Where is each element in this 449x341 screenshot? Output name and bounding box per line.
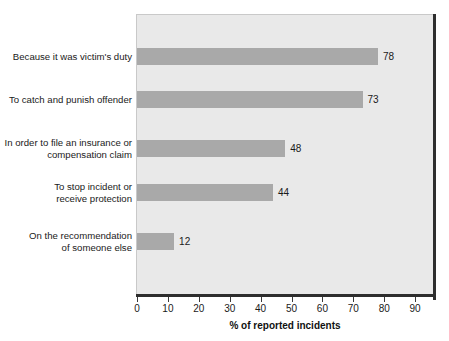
tick-label: 20 bbox=[187, 303, 211, 314]
tick-label: 90 bbox=[403, 303, 427, 314]
bar bbox=[137, 91, 363, 108]
category-label: To catch and punish offender bbox=[4, 94, 132, 106]
tick-mark bbox=[292, 297, 293, 302]
category-label: On the recommendation of someone else bbox=[4, 230, 132, 253]
bar bbox=[137, 48, 378, 65]
tick-label: 50 bbox=[280, 303, 304, 314]
tick-mark bbox=[137, 297, 138, 302]
bar-chart: 7873484412 Because it was victim's dutyT… bbox=[0, 0, 449, 341]
tick-mark bbox=[415, 297, 416, 302]
category-label: To stop incident or receive protection bbox=[4, 181, 132, 204]
tick-label: 40 bbox=[249, 303, 273, 314]
tick-label: 0 bbox=[125, 303, 149, 314]
bar-value-label: 12 bbox=[179, 233, 190, 250]
category-label: Because it was victim's duty bbox=[4, 51, 132, 63]
bar-value-label: 78 bbox=[383, 48, 394, 65]
x-axis-line bbox=[136, 294, 436, 297]
tick-mark bbox=[230, 297, 231, 302]
tick-mark bbox=[322, 297, 323, 302]
tick-mark bbox=[168, 297, 169, 302]
plot-border-right bbox=[433, 14, 436, 300]
tick-mark bbox=[353, 297, 354, 302]
bar-value-label: 73 bbox=[368, 91, 379, 108]
tick-label: 70 bbox=[341, 303, 365, 314]
category-label: In order to file an insurance or compens… bbox=[4, 137, 132, 160]
tick-label: 60 bbox=[310, 303, 334, 314]
tick-mark bbox=[199, 297, 200, 302]
tick-mark bbox=[384, 297, 385, 302]
tick-mark bbox=[261, 297, 262, 302]
bar bbox=[137, 233, 174, 250]
bar-value-label: 44 bbox=[278, 184, 289, 201]
bar bbox=[137, 140, 285, 157]
bar-value-label: 48 bbox=[290, 140, 301, 157]
bar bbox=[137, 184, 273, 201]
tick-label: 80 bbox=[372, 303, 396, 314]
tick-label: 10 bbox=[156, 303, 180, 314]
x-axis-title: % of reported incidents bbox=[136, 320, 434, 331]
tick-label: 30 bbox=[218, 303, 242, 314]
